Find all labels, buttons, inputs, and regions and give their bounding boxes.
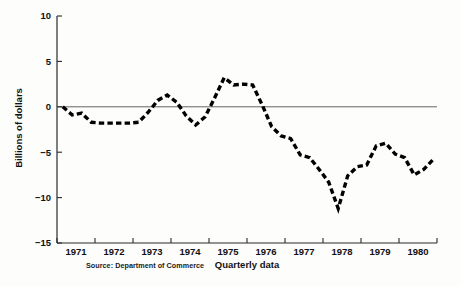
y-axis-ticks [57,16,62,243]
y-axis-tick-label: 0 [46,101,51,112]
x-axis-tick-label: 1971 [65,246,87,257]
line-chart: 1050−5−10−15 197119721973197419751976197… [0,0,461,286]
x-axis-tick-label: 1975 [217,246,239,257]
y-axis-tick-label: 10 [40,10,51,21]
chart-figure: 1050−5−10−15 197119721973197419751976197… [0,0,461,286]
x-axis-tick-label: 1980 [407,246,428,257]
y-axis-title: Billions of dollars [13,88,24,168]
x-axis-tick-label: 1977 [293,246,314,257]
x-axis-tick-label: 1978 [331,246,352,257]
y-axis-tick-label: −10 [35,192,51,203]
x-axis-tick-labels: 1971197219731974197519761977197819791980 [65,246,428,257]
x-axis-tick-label: 1979 [369,246,390,257]
x-axis-tick-label: 1972 [103,246,124,257]
y-axis-tick-labels: 1050−5−10−15 [35,10,52,248]
x-axis-tick-label: 1973 [141,246,162,257]
data-series-line [63,78,434,209]
y-axis-tick-label: −15 [35,237,52,248]
source-note: Source: Department of Commerce [86,261,204,270]
x-axis-tick-label: 1974 [179,246,201,257]
x-axis-title: Quarterly data [215,259,280,270]
y-axis-tick-label: 5 [46,56,52,67]
y-axis-tick-label: −5 [40,147,52,158]
x-axis-tick-label: 1976 [255,246,276,257]
x-axis-ticks [57,238,437,243]
